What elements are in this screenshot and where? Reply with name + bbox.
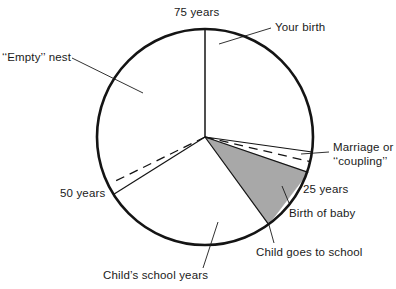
label-marriage-line-1: Marriage or bbox=[333, 141, 393, 155]
label-child-goes-to-school: Child goes to school bbox=[256, 246, 363, 260]
label-50-years: 50 years bbox=[60, 187, 105, 201]
leader-child-goes-to-school bbox=[269, 225, 274, 243]
figure-canvas: 75 years Your birth ‘‘Empty’’ nest Marri… bbox=[0, 0, 396, 289]
label-75-years: 75 years bbox=[174, 6, 219, 20]
label-your-birth: Your birth bbox=[275, 21, 325, 35]
radius-50-years-dashed bbox=[112, 137, 206, 183]
label-birth-of-baby: Birth of baby bbox=[289, 207, 356, 221]
label-childs-school-years: Child’s school years bbox=[103, 269, 208, 283]
label-marriage-line-2: ‘‘coupling’’ bbox=[333, 155, 393, 169]
label-marriage-coupling: Marriage or ‘‘coupling’’ bbox=[333, 141, 393, 168]
radius-school-years-end bbox=[113, 137, 205, 195]
label-empty-nest: ‘‘Empty’’ nest bbox=[2, 51, 71, 65]
leader-marriage-coupling bbox=[301, 152, 329, 154]
label-25-years: 25 years bbox=[303, 183, 348, 197]
